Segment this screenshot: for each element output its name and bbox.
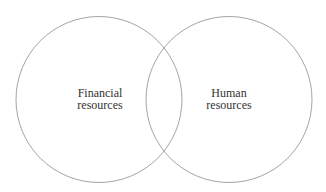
human-resources-label-line-2: resources <box>189 99 269 111</box>
venn-circles <box>0 0 326 192</box>
financial-resources-label: Financial resources <box>60 87 140 111</box>
financial-resources-label-line-2: resources <box>60 99 140 111</box>
human-resources-label: Human resources <box>189 87 269 111</box>
venn-diagram: Financial resources Human resources <box>0 0 326 192</box>
